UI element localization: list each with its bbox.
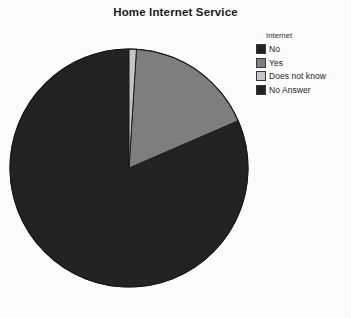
legend-swatch-icon [256, 85, 266, 95]
pie-slice-group [10, 49, 248, 287]
legend-item-label: Yes [269, 58, 283, 68]
legend-swatch-icon [256, 71, 266, 81]
legend-swatch-icon [256, 58, 266, 68]
pie-chart-plot-area [9, 47, 250, 290]
legend-swatch-icon [256, 44, 266, 54]
pie-svg [9, 47, 250, 290]
legend: Internet NoYesDoes not knowNo Answer [256, 31, 351, 97]
legend-item-does-not-know[interactable]: Does not know [256, 70, 351, 84]
legend-items: NoYesDoes not knowNo Answer [256, 43, 351, 97]
legend-item-yes[interactable]: Yes [256, 56, 351, 70]
legend-item-no[interactable]: No [256, 43, 351, 57]
page-title: Home Internet Service [0, 6, 351, 18]
legend-item-label: No [269, 44, 280, 54]
legend-item-label: Does not know [269, 71, 326, 81]
legend-title: Internet [266, 31, 351, 40]
legend-item-no-answer[interactable]: No Answer [256, 83, 351, 97]
legend-item-label: No Answer [269, 85, 311, 95]
pie-chart-figure: Home Internet Service Internet NoYesDoes… [0, 0, 351, 318]
